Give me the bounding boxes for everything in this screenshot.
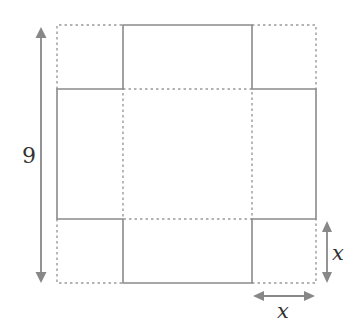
corner-cut-top-left: [57, 25, 123, 89]
arrow-down-icon: [322, 272, 332, 283]
arrow-right-icon: [304, 291, 315, 301]
cut-width-label: x: [277, 299, 289, 323]
side-length-arrow: [36, 27, 47, 283]
arrow-left-icon: [253, 291, 264, 301]
arrow-up-icon: [36, 27, 47, 38]
side-length-label: 9: [22, 143, 36, 168]
corner-cut-bottom-left: [57, 219, 123, 283]
cut-height-arrow: [322, 221, 332, 283]
net-outline: [57, 25, 316, 283]
box-base-fold: [123, 89, 252, 219]
arrow-down-icon: [36, 272, 47, 283]
box-net-diagram: 9 x x: [0, 0, 363, 335]
cut-height-label: x: [332, 241, 344, 265]
corner-cut-bottom-right: [252, 219, 316, 283]
fold-lines: [57, 25, 316, 283]
arrow-up-icon: [322, 221, 332, 232]
corner-cut-top-right: [252, 25, 316, 89]
